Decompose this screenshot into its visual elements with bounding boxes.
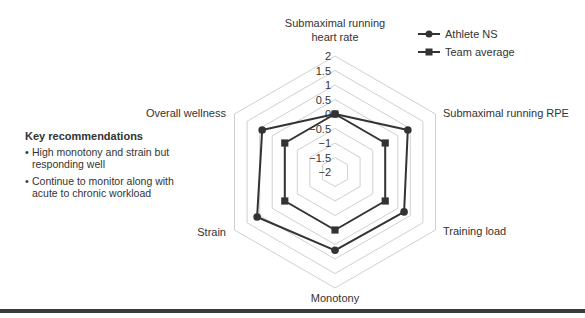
axis-label: Training load	[443, 225, 506, 237]
legend: Athlete NSTeam average	[418, 28, 515, 58]
data-point-square	[281, 197, 288, 204]
legend-label: Team average	[445, 46, 515, 58]
data-point-square	[382, 139, 389, 146]
tick-label: −1.5	[309, 152, 331, 164]
data-point-square	[331, 226, 338, 233]
axis-label: Monotony	[311, 292, 360, 304]
grid-ring	[285, 114, 385, 230]
data-point-circle	[258, 126, 266, 134]
grid-ring	[297, 129, 372, 216]
legend-label: Athlete NS	[445, 28, 498, 40]
legend-circle-icon	[426, 31, 433, 38]
legend-square-icon	[426, 49, 433, 56]
axis-label: Submaximal runningheart rate	[285, 17, 385, 43]
tick-label: 1.5	[316, 65, 331, 77]
data-point-circle	[331, 247, 339, 255]
data-series	[253, 110, 411, 254]
axis-label: Submaximal running RPE	[443, 107, 569, 119]
data-point-circle	[400, 208, 408, 216]
axis-label: Overall wellness	[146, 107, 227, 119]
bottom-divider	[0, 309, 585, 313]
tick-label: 1	[325, 79, 331, 91]
recommendation-item: Continue to monitor along with acute to …	[25, 175, 175, 200]
tick-label: 0.5	[316, 94, 331, 106]
tick-label: 2	[325, 50, 331, 62]
recommendation-item: High monotony and strain but responding …	[25, 146, 175, 171]
data-point-circle	[253, 213, 261, 221]
recommendations-title: Key recommendations	[25, 130, 175, 143]
tick-label: −0.5	[309, 123, 331, 135]
data-point-circle	[404, 126, 412, 134]
series-line	[285, 114, 385, 230]
data-point-square	[281, 139, 288, 146]
key-recommendations: Key recommendations High monotony and st…	[25, 130, 175, 204]
grid-ring	[272, 100, 398, 245]
data-point-square	[331, 110, 338, 117]
tick-label: −1	[318, 137, 331, 149]
axis-label: Strain	[197, 226, 226, 238]
grid-ring	[247, 71, 423, 274]
tick-label: −2	[318, 166, 331, 178]
data-point-square	[382, 197, 389, 204]
